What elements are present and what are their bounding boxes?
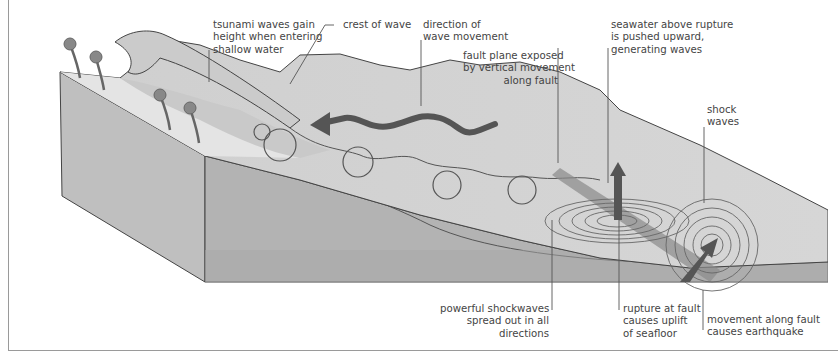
label-tsunami-height: tsunami waves gain height when entering … (213, 19, 322, 56)
label-fault-plane: fault plane exposed by vertical movement… (463, 50, 558, 87)
label-direction: direction of wave movement (423, 19, 508, 44)
label-shock-waves: shock waves (707, 104, 739, 129)
label-powerful-shockwaves: powerful shockwaves spread out in all di… (440, 303, 549, 340)
label-crest: crest of wave (343, 19, 411, 31)
label-seawater: seawater above rupture is pushed upward,… (611, 19, 733, 56)
label-rupture: rupture at fault causes uplift of seaflo… (623, 303, 701, 340)
label-movement: movement along fault causes earthquake (707, 314, 820, 339)
